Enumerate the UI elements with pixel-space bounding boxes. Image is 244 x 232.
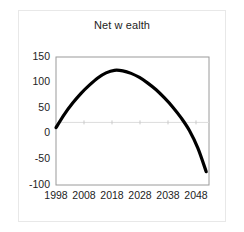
ytick-label-minus-50: -50 (16, 153, 50, 164)
ytick-label-150: 150 (16, 51, 50, 62)
ytick-label-50: 50 (16, 102, 50, 113)
plot-frame (56, 57, 209, 185)
chart-figure: Net w ealth 150 100 50 0 -50 -100 1998 2… (0, 0, 244, 232)
xtick-label-2048: 2048 (176, 190, 216, 201)
ytick-label-100: 100 (16, 76, 50, 87)
ytick-label-0: 0 (16, 127, 50, 138)
